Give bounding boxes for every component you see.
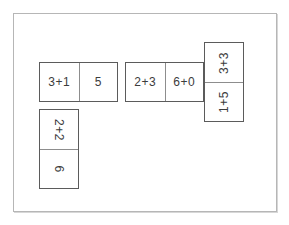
- domino-cell[interactable]: 5: [79, 63, 118, 101]
- domino-cell[interactable]: 6+0: [165, 63, 204, 101]
- domino-cell-label: 5: [95, 76, 102, 88]
- domino-cell[interactable]: 2+3: [126, 63, 165, 101]
- domino-cell[interactable]: 3+3: [205, 43, 243, 82]
- domino-cell[interactable]: 3+1: [40, 63, 79, 101]
- domino-cell[interactable]: 1+5: [205, 82, 243, 121]
- domino-tile-a[interactable]: 3+1 5: [39, 62, 118, 102]
- domino-cell-label: 1+5: [218, 91, 230, 113]
- domino-cell[interactable]: 6: [40, 149, 78, 188]
- domino-cell-label: 6: [53, 165, 65, 172]
- domino-cell-label: 2+3: [134, 76, 156, 88]
- domino-cell-label: 3+3: [218, 52, 230, 74]
- domino-tile-d[interactable]: 2+2 6: [39, 109, 79, 189]
- domino-cell[interactable]: 2+2: [40, 110, 78, 149]
- screenshot-canvas: 3+1 5 2+3 6+0 3+3 1+5: [0, 0, 289, 225]
- domino-tile-b[interactable]: 2+3 6+0: [125, 62, 204, 102]
- domino-cell-label: 6+0: [173, 76, 195, 88]
- domino-board: 3+1 5 2+3 6+0 3+3 1+5: [13, 13, 277, 212]
- domino-tile-c[interactable]: 3+3 1+5: [204, 42, 244, 122]
- domino-cell-label: 3+1: [48, 76, 70, 88]
- domino-cell-label: 2+2: [53, 119, 65, 141]
